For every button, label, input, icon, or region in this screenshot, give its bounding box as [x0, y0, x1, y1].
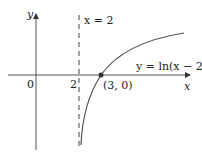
- tick-2-label: 2: [70, 78, 77, 91]
- point-marker: [99, 73, 104, 78]
- y-axis-label: y: [26, 8, 34, 21]
- point-label: (3, 0): [103, 79, 133, 92]
- asymptote-label: x = 2: [84, 14, 113, 27]
- curve-label: y = ln(x − 2): [135, 60, 202, 73]
- x-axis-label: x: [184, 80, 191, 93]
- origin-label: 0: [27, 78, 34, 91]
- graph: y x 0 2 x = 2 y = ln(x − 2) (3, 0): [0, 0, 202, 154]
